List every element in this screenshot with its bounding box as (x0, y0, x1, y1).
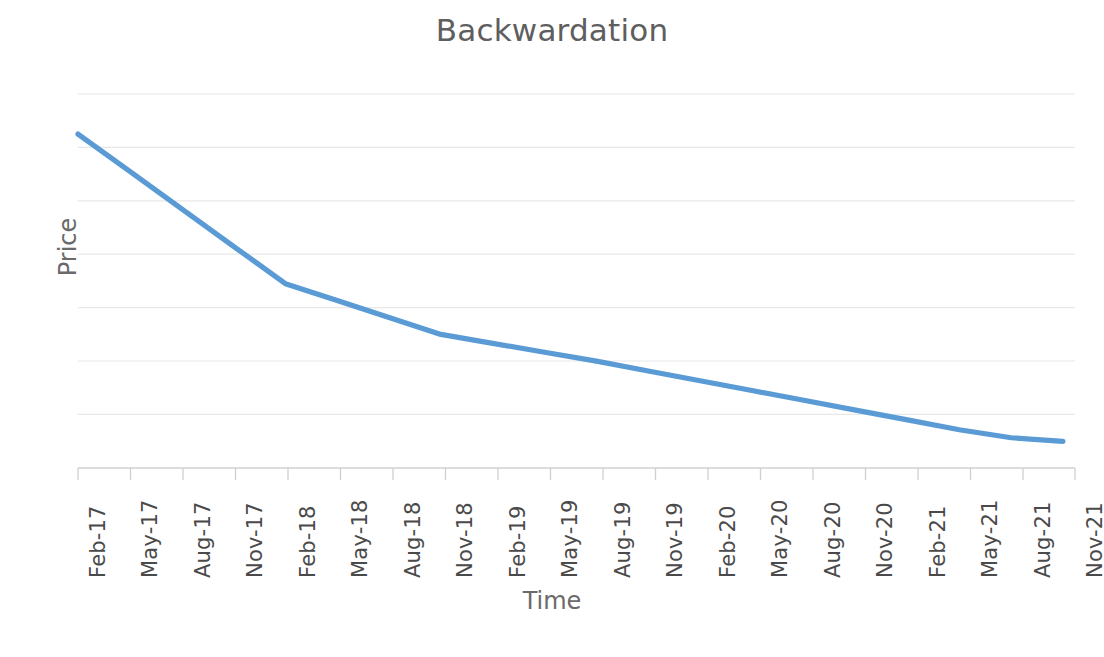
x-axis-tick-label: Feb-18 (297, 468, 319, 578)
x-axis-title: Time (0, 586, 1104, 616)
x-axis-tick-label: Feb-17 (87, 468, 109, 578)
x-axis-tick-label: Aug-19 (612, 468, 634, 578)
x-axis-tick-label: Feb-20 (717, 468, 739, 578)
x-axis-tick-label: May-17 (139, 468, 161, 578)
x-axis-tick-label: Aug-21 (1032, 468, 1054, 578)
x-axis-tick-label: Nov-19 (664, 468, 686, 578)
x-axis-tick-label: Nov-20 (874, 468, 896, 578)
x-axis-tick-label: Aug-18 (402, 468, 424, 578)
x-axis-tick-label: Feb-19 (507, 468, 529, 578)
x-axis-tick-label: May-19 (559, 468, 581, 578)
x-axis-tick-label: May-20 (769, 468, 791, 578)
x-axis-tick-label: Feb-21 (927, 468, 949, 578)
x-axis-tick-label: Nov-18 (454, 468, 476, 578)
x-axis-tick-label: May-18 (349, 468, 371, 578)
x-axis-tick-label: Nov-17 (244, 468, 266, 578)
x-axis-tick-labels: Feb-17May-17Aug-17Nov-17Feb-18May-18Aug-… (0, 0, 1104, 657)
x-axis-tick-label: Aug-17 (192, 468, 214, 578)
x-axis-tick-label: Aug-20 (822, 468, 844, 578)
x-axis-tick-label: Nov-21 (1084, 468, 1104, 578)
chart-container: Backwardation (0, 0, 1104, 657)
x-axis-tick-label: May-21 (979, 468, 1001, 578)
